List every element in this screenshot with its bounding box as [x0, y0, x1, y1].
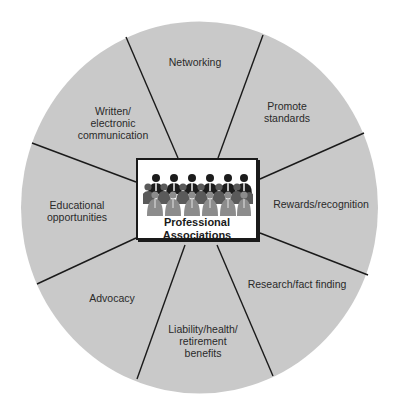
segment-rewards-recognition: Rewards/recognition — [273, 198, 369, 210]
professional-associations-diagram: Networking Promote standards Rewards/rec… — [0, 0, 398, 409]
segment-research-fact-finding: Research/fact finding — [248, 278, 347, 290]
segment-label: benefits — [168, 347, 237, 359]
segment-label: Rewards/recognition — [273, 198, 369, 210]
center-title-line: Professional — [138, 216, 256, 229]
segment-label: retirement — [168, 335, 237, 347]
segment-label: communication — [78, 129, 149, 141]
segment-label: standards — [264, 112, 310, 124]
center-title: Professional Associations — [138, 216, 256, 241]
segment-label: opportunities — [47, 211, 107, 223]
segment-educational-opportunities: Educational opportunities — [47, 199, 107, 223]
segment-label: Advocacy — [89, 292, 135, 304]
segment-label: Written/ — [78, 105, 149, 117]
segment-label: electronic — [78, 117, 149, 129]
segment-liability-health-retirement: Liability/health/ retirement benefits — [168, 323, 237, 359]
segment-advocacy: Advocacy — [89, 292, 135, 304]
group-of-people-icon — [143, 170, 253, 216]
segment-networking: Networking — [169, 56, 222, 68]
segment-label: Liability/health/ — [168, 323, 237, 335]
segment-label: Educational — [47, 199, 107, 211]
segment-label: Promote — [264, 100, 310, 112]
center-box: Professional Associations — [136, 158, 258, 240]
center-title-line: Associations — [138, 229, 256, 242]
segment-label: Networking — [169, 56, 222, 68]
segment-label: Research/fact finding — [248, 278, 347, 290]
segment-written-electronic-communication: Written/ electronic communication — [78, 105, 149, 141]
segment-promote-standards: Promote standards — [264, 100, 310, 124]
